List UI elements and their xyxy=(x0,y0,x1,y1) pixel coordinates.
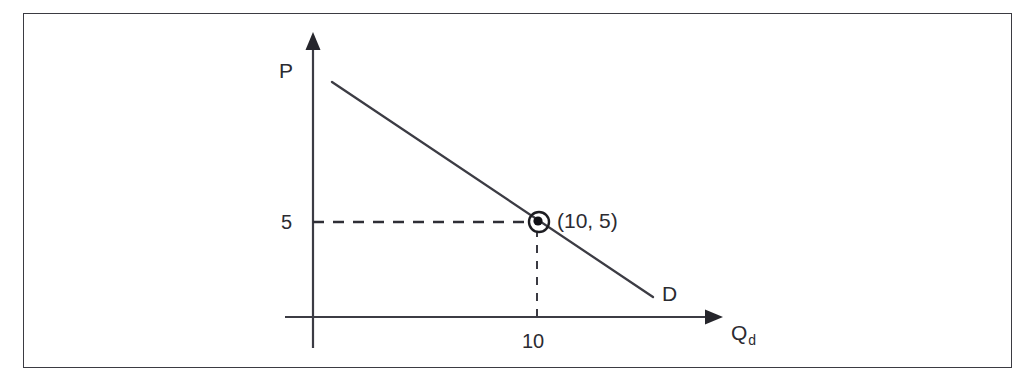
x-axis-label-base: Q xyxy=(731,321,747,344)
demand-curve-line xyxy=(332,82,653,297)
curve-label-d: D xyxy=(662,283,677,304)
point-marker-dot xyxy=(533,216,542,225)
x-axis-label: Qd xyxy=(731,322,756,347)
x-axis-label-subscript: d xyxy=(748,332,756,348)
point-coordinate-label: (10, 5) xyxy=(557,210,618,231)
figure-root: P Qd D 5 10 (10, 5) xyxy=(0,0,1030,391)
x-axis-arrow-icon xyxy=(705,310,723,325)
y-axis-label: P xyxy=(279,60,293,81)
demand-curve-plot xyxy=(0,0,1030,391)
y-axis-tick-label-5: 5 xyxy=(281,212,292,232)
x-axis-tick-label-10: 10 xyxy=(522,331,544,351)
y-axis-arrow-icon xyxy=(306,32,321,50)
